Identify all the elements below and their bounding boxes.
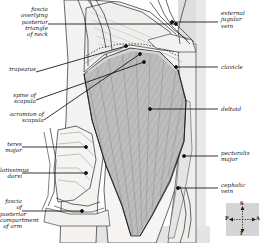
label-fascia-overlying-posterior-triangle-of-neck: fascia overlying posterior triangle of n… [2,6,48,37]
label-clavicle: clavicle [221,64,265,70]
compass-posterior-label: P [225,215,229,221]
label-trapezius: trapezius [2,66,36,72]
label-teres-major: teres major [0,141,22,154]
label-deltoid: deltoid [221,106,265,112]
label-latissimus-dorsi: latissimus dorsi [0,167,22,180]
compass-inferior-label: I [240,230,242,236]
label-cephalic-vein: cephalic vein [221,182,265,195]
compass-anterior-label: A [256,215,260,221]
label-spine-of-scapula: spine of scapula [2,92,36,105]
label-fascia-posterior-compartment-of-arm: fascia of posterior compartment of arm [0,198,22,229]
compass-superior-label: S [240,200,244,206]
label-acromion-of-scapula: acromion of scapula [0,111,44,124]
orientation-compass [226,203,259,236]
label-pectoralis-major: pectoralis major [221,150,265,163]
anatomical-illustration: fascia overlying posterior triangle of n… [0,0,266,243]
label-external-jugular-vein: external jugular vein [221,10,265,29]
